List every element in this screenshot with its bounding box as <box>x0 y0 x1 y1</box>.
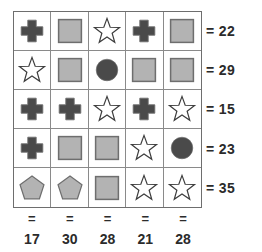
equals-sign: = <box>206 141 215 157</box>
equals-sign: = <box>104 210 112 229</box>
row-sum-value: 22 <box>219 23 236 39</box>
square-icon <box>167 16 197 46</box>
square-icon <box>55 16 85 46</box>
grid-cell[interactable] <box>126 129 163 168</box>
column-sum: =28 <box>164 210 202 250</box>
cross-icon <box>17 16 47 46</box>
square-icon <box>92 133 122 163</box>
square-icon <box>55 55 85 85</box>
star-icon <box>167 173 197 203</box>
grid-cell[interactable] <box>164 51 201 90</box>
row-sum: =29 <box>206 50 260 89</box>
row-sum-value: 15 <box>219 101 236 117</box>
row-sum-value: 29 <box>219 62 236 78</box>
grid-cell[interactable] <box>89 90 126 129</box>
grid-cell[interactable] <box>126 51 163 90</box>
square-icon <box>129 55 159 85</box>
equals-sign: = <box>206 180 215 196</box>
column-sum-value: 17 <box>24 229 40 249</box>
row-sum: =15 <box>206 90 260 129</box>
cross-icon <box>17 133 47 163</box>
grid-cell[interactable] <box>126 12 163 51</box>
equals-sign: = <box>179 210 187 229</box>
column-sum: =17 <box>13 210 51 250</box>
row-sum: =35 <box>206 169 260 208</box>
grid-cell[interactable] <box>126 168 163 207</box>
row-sum-value: 35 <box>219 180 236 196</box>
square-icon <box>55 133 85 163</box>
equals-sign: = <box>206 23 215 39</box>
row-sum: =22 <box>206 11 260 50</box>
grid-cell[interactable] <box>14 12 51 51</box>
pentagon-icon <box>17 173 47 203</box>
square-icon <box>92 173 122 203</box>
column-sum-value: 21 <box>138 229 154 249</box>
equals-sign: = <box>28 210 36 229</box>
grid-cell[interactable] <box>164 168 201 207</box>
column-sum: =28 <box>89 210 127 250</box>
column-sum-value: 28 <box>100 229 116 249</box>
equals-sign: = <box>66 210 74 229</box>
cross-icon <box>55 94 85 124</box>
grid-cell[interactable] <box>126 90 163 129</box>
grid-cells <box>14 12 201 207</box>
grid-cell[interactable] <box>89 51 126 90</box>
row-sum: =23 <box>206 129 260 168</box>
row-sum-value: 23 <box>219 141 236 157</box>
grid-cell[interactable] <box>51 51 88 90</box>
column-sum: =21 <box>126 210 164 250</box>
grid-cell[interactable] <box>14 51 51 90</box>
star-icon <box>17 55 47 85</box>
puzzle-grid <box>13 11 202 208</box>
column-sum-row: =17=30=28=21=28 <box>13 210 202 250</box>
column-sum-value: 28 <box>175 229 191 249</box>
cross-icon <box>129 94 159 124</box>
row-sum-column: =22=29=15=23=35 <box>206 11 260 208</box>
circle-icon <box>167 133 197 163</box>
square-icon <box>167 55 197 85</box>
star-icon <box>92 94 122 124</box>
shape-sum-puzzle: =22=29=15=23=35 =17=30=28=21=28 <box>0 0 262 252</box>
grid-cell[interactable] <box>89 12 126 51</box>
grid-cell[interactable] <box>164 12 201 51</box>
cross-icon <box>129 16 159 46</box>
equals-sign: = <box>206 101 215 117</box>
pentagon-icon <box>55 173 85 203</box>
circle-icon <box>92 55 122 85</box>
grid-cell[interactable] <box>51 129 88 168</box>
grid-cell[interactable] <box>164 129 201 168</box>
star-icon <box>92 16 122 46</box>
star-icon <box>129 173 159 203</box>
grid-cell[interactable] <box>14 168 51 207</box>
star-icon <box>129 133 159 163</box>
grid-cell[interactable] <box>89 129 126 168</box>
equals-sign: = <box>141 210 149 229</box>
column-sum: =30 <box>51 210 89 250</box>
grid-cell[interactable] <box>51 12 88 51</box>
cross-icon <box>17 94 47 124</box>
equals-sign: = <box>206 62 215 78</box>
grid-cell[interactable] <box>164 90 201 129</box>
star-icon <box>167 94 197 124</box>
grid-cell[interactable] <box>14 90 51 129</box>
grid-cell[interactable] <box>89 168 126 207</box>
grid-cell[interactable] <box>51 90 88 129</box>
grid-cell[interactable] <box>14 129 51 168</box>
grid-cell[interactable] <box>51 168 88 207</box>
column-sum-value: 30 <box>62 229 78 249</box>
